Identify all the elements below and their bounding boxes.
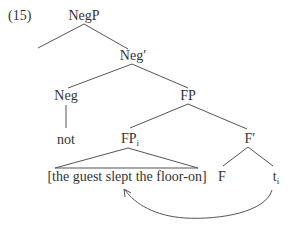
node-negp: NegP bbox=[68, 8, 99, 24]
node-fp-i: FPi bbox=[121, 131, 139, 151]
movement-arrow bbox=[125, 190, 272, 218]
tree-branches bbox=[0, 0, 290, 227]
node-f-bar: F′ bbox=[245, 131, 256, 147]
node-neg: Neg bbox=[54, 88, 77, 104]
node-f: F bbox=[218, 169, 226, 185]
clause-text: [the guest slept the floor-on] bbox=[47, 169, 206, 185]
node-fp: FP bbox=[180, 88, 196, 104]
node-trace: ti bbox=[273, 169, 279, 189]
node-neg-bar: Neg′ bbox=[120, 48, 146, 64]
node-not: not bbox=[57, 132, 75, 148]
